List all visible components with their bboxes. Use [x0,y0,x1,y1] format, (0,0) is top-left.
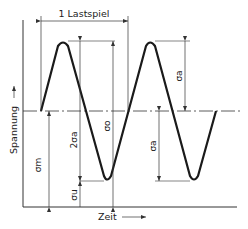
sigma-a-lower-label: σa [148,140,158,151]
y-axis-label: Spannung [8,106,19,154]
cycle-label: 1 Lastspiel [59,8,110,19]
stress-cycle-diagram: 1 Lastspiel σm 2σa σu σo σa σa Spannung … [0,0,248,229]
sigma-m-label: σm [33,158,43,172]
sigma-u-label: σu [69,189,79,200]
sigma-a-upper-label: σa [174,70,184,81]
two-sigma-a-label: 2σa [69,132,79,149]
x-axis-label: Zeit [98,211,117,222]
sigma-o-label: σo [102,120,112,132]
